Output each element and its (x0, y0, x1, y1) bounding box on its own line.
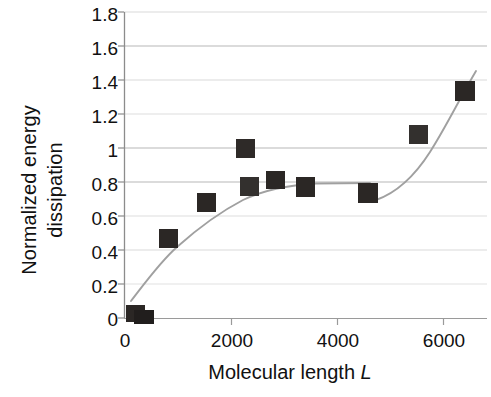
x-tick-label-4000: 4000 (293, 330, 383, 352)
x-axis-title-symbol: L (361, 361, 372, 383)
x-axis-tick-labels: 0 2000 4000 6000 (0, 0, 491, 397)
x-tick-label-0: 0 (80, 330, 170, 352)
x-tick-label-6000: 6000 (399, 330, 489, 352)
x-axis-title-text: Molecular length (208, 361, 355, 383)
x-tick-label-2000: 2000 (187, 330, 277, 352)
chart-container: Normalized energy dissipation 1.8 1.6 1.… (0, 0, 491, 397)
x-axis-title: Molecular length L (95, 360, 485, 384)
